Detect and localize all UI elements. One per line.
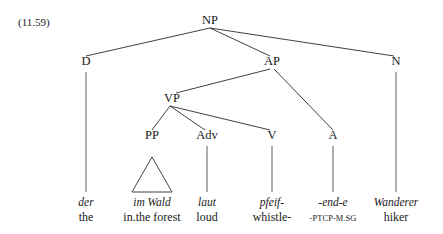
- tree-node-pp: PP: [145, 128, 159, 142]
- leaf-laut-form: laut: [198, 196, 217, 208]
- leaf-der-gloss: the: [79, 210, 94, 224]
- leaf-laut-gloss: loud: [196, 210, 217, 224]
- tree-node-np: NP: [202, 13, 218, 27]
- leaf-wanderer-form: Wanderer: [374, 196, 419, 208]
- example-number: (11.59): [18, 16, 50, 29]
- leaf-der-form: der: [78, 196, 94, 208]
- syntax-tree-figure: (11.59) NPDAPNVPPPAdvVA dertheim Waldin.…: [0, 0, 443, 234]
- tree-node-adv: Adv: [196, 128, 218, 142]
- tree-node-vp: VP: [164, 91, 180, 105]
- leaf-im-wald-form: im Wald: [133, 196, 171, 208]
- leaf-pfeif-gloss: whistle-: [253, 210, 292, 224]
- tree-node-v: V: [267, 128, 276, 142]
- tree-node-a: A: [328, 128, 337, 142]
- leaf-pfeif-form: pfeif-: [259, 196, 284, 209]
- tree-node-n: N: [391, 54, 400, 68]
- leaf-wanderer-gloss: hiker: [384, 210, 409, 224]
- tree-node-ap: AP: [264, 54, 280, 68]
- tree-node-d: D: [81, 54, 90, 68]
- leaf-end-e-form: -end-e: [318, 196, 347, 208]
- leaf-im-wald-gloss: in.the forest: [123, 210, 181, 224]
- leaf-end-e-gloss: -PTCP-M.SG: [310, 214, 357, 223]
